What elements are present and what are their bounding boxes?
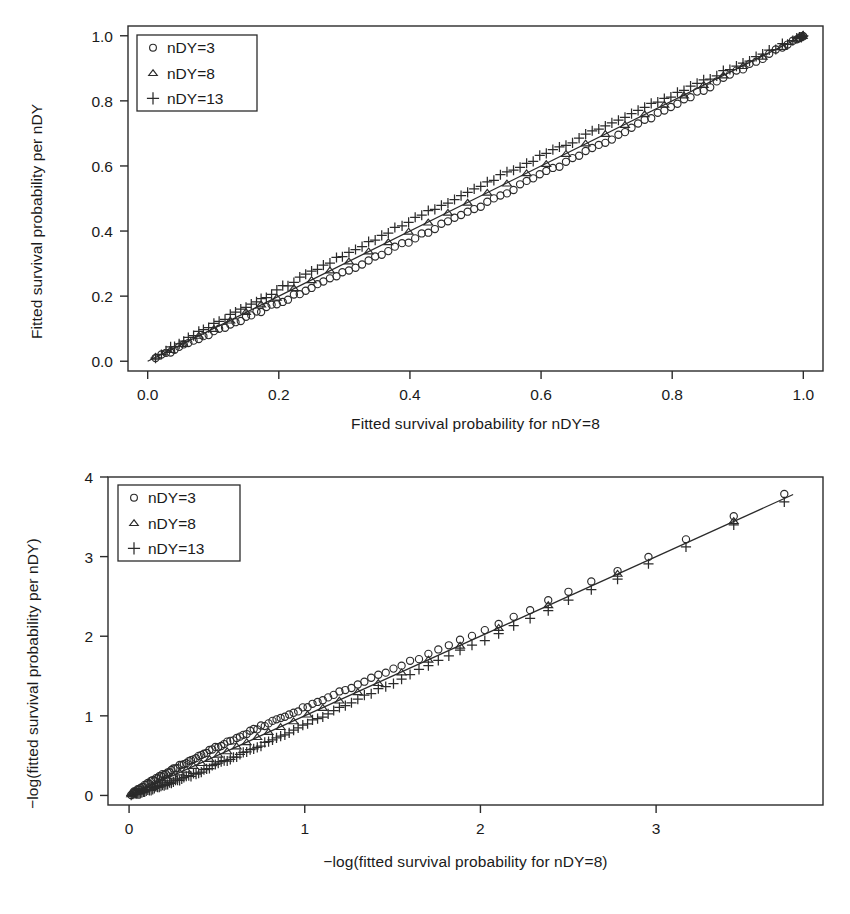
svg-text:0: 0 [84, 787, 93, 804]
svg-text:nDY=8: nDY=8 [167, 65, 215, 82]
top-x-axis-title: Fitted survival probability for nDY=8 [0, 415, 850, 433]
top-y-axis-title: Fitted survival probability per nDY [28, 103, 46, 338]
svg-text:0.8: 0.8 [91, 93, 113, 110]
bottom-plot-canvas: 012301234nDY=3nDY=8nDY=13 [0, 455, 850, 914]
svg-text:0.8: 0.8 [661, 386, 683, 403]
svg-text:0.4: 0.4 [399, 386, 421, 403]
svg-text:0.0: 0.0 [91, 353, 113, 370]
bottom-x-axis-title: −log(fitted survival probability for nDY… [0, 853, 850, 871]
figure-root: 0.00.20.40.60.81.00.00.20.40.60.81.0nDY=… [0, 0, 850, 914]
panel-bottom: 012301234nDY=3nDY=8nDY=13 −log(fitted su… [0, 455, 850, 914]
svg-text:0.2: 0.2 [268, 386, 290, 403]
svg-text:2: 2 [476, 820, 485, 837]
svg-text:0: 0 [125, 820, 134, 837]
svg-text:1: 1 [84, 708, 93, 725]
svg-text:nDY=3: nDY=3 [167, 39, 215, 56]
svg-text:0.6: 0.6 [91, 158, 113, 175]
svg-text:0.4: 0.4 [91, 223, 113, 240]
svg-text:0.6: 0.6 [530, 386, 552, 403]
svg-text:1: 1 [300, 820, 309, 837]
svg-text:0.2: 0.2 [91, 288, 113, 305]
svg-text:nDY=13: nDY=13 [167, 90, 223, 107]
svg-text:nDY=8: nDY=8 [148, 515, 196, 532]
svg-text:4: 4 [84, 469, 93, 486]
panel-top: 0.00.20.40.60.81.00.00.20.40.60.81.0nDY=… [0, 0, 850, 455]
svg-text:3: 3 [84, 549, 93, 566]
svg-text:2: 2 [84, 628, 93, 645]
svg-text:0.0: 0.0 [137, 386, 159, 403]
svg-text:1.0: 1.0 [91, 28, 113, 45]
svg-text:1.0: 1.0 [793, 386, 815, 403]
top-plot-canvas: 0.00.20.40.60.81.00.00.20.40.60.81.0nDY=… [0, 0, 850, 455]
svg-text:nDY=13: nDY=13 [148, 540, 204, 557]
svg-text:3: 3 [652, 820, 661, 837]
bottom-y-axis-title: −log(fitted survival probability per nDY… [24, 538, 42, 809]
svg-text:nDY=3: nDY=3 [148, 489, 196, 506]
